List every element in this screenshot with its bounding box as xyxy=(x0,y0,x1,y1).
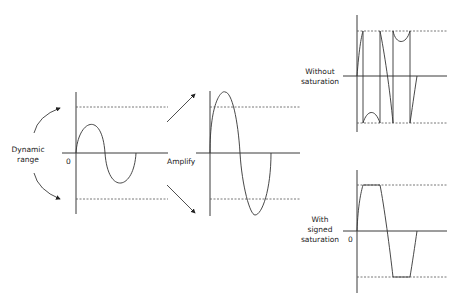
dynamic-range-arrow-down xyxy=(34,173,60,199)
panel-with-signed-saturation: 0 xyxy=(343,170,447,293)
dynamic-range-label-2: range xyxy=(17,155,39,164)
without-label-1: Without xyxy=(305,67,334,76)
saturation-diagram: Dynamic range 0 Amplify Without saturati… xyxy=(0,0,458,305)
amplify-arrow-down xyxy=(167,185,195,213)
panel-amplified xyxy=(196,91,300,216)
zero-label: 0 xyxy=(348,235,353,244)
sine-wave xyxy=(76,124,136,183)
without-label-2: saturation xyxy=(301,77,339,86)
wrapped-wave xyxy=(357,31,417,123)
with-label-3: saturation xyxy=(301,235,339,244)
amplify-label: Amplify xyxy=(167,157,196,166)
with-label-2: signed xyxy=(308,225,333,234)
with-label-1: With xyxy=(311,215,328,224)
zero-label: 0 xyxy=(66,157,71,166)
panel-original: 0 xyxy=(62,92,168,214)
panel-without-saturation xyxy=(343,15,447,132)
dynamic-range-label-1: Dynamic xyxy=(11,145,44,154)
dynamic-range-arrow-up xyxy=(34,108,60,133)
amplify-arrow-up xyxy=(167,94,195,122)
